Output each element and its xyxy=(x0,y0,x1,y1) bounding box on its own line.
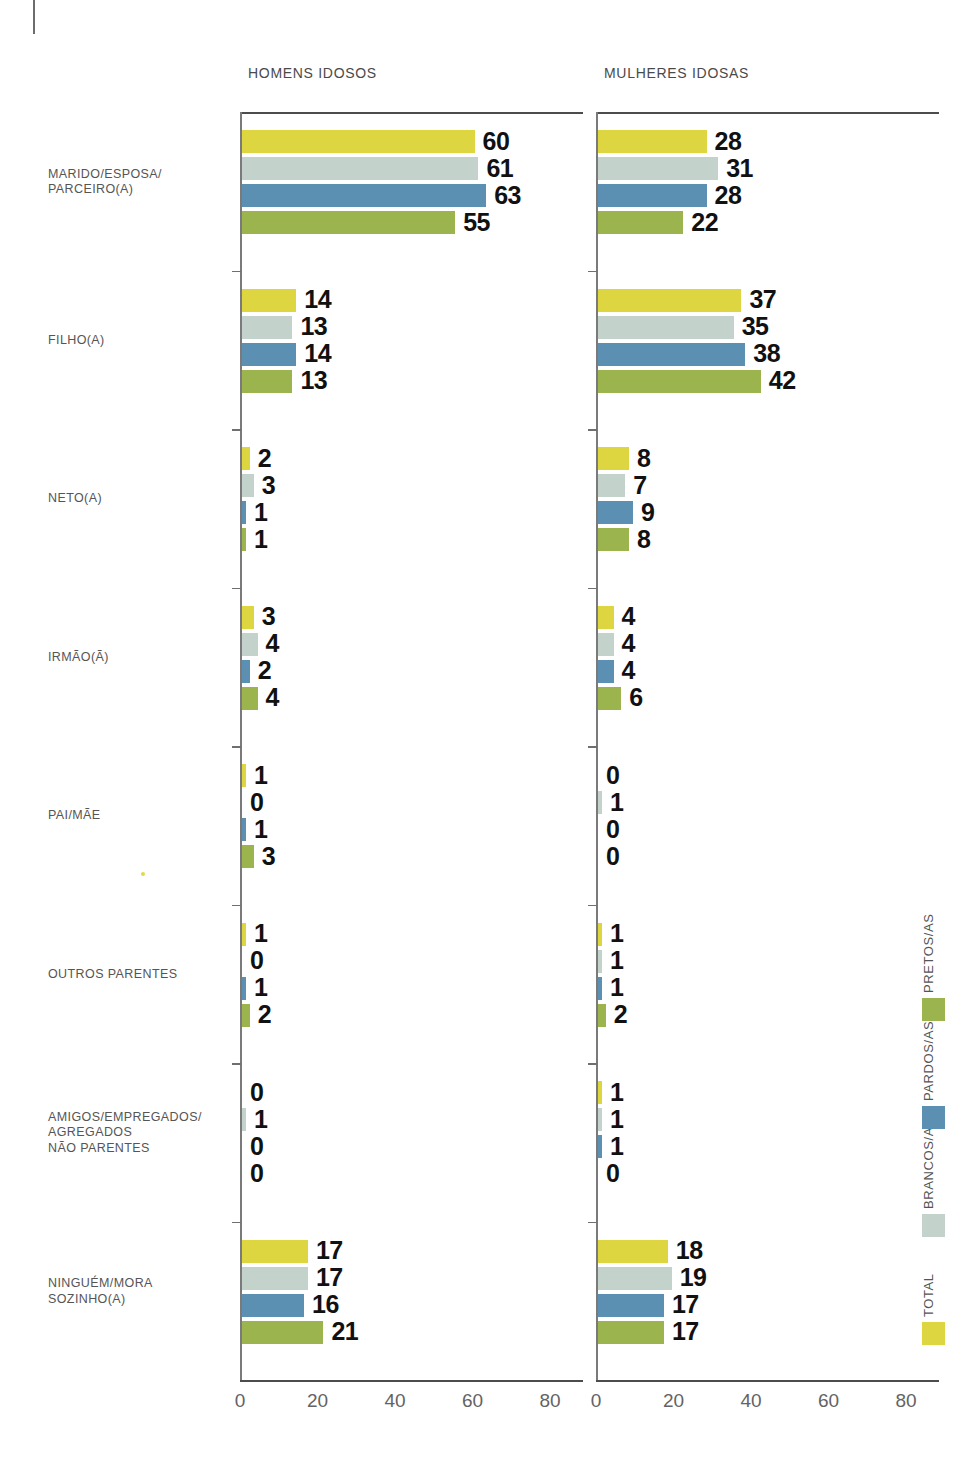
bar-row: 1 xyxy=(242,818,583,841)
bar-value-label: 4 xyxy=(622,656,635,685)
axis-top xyxy=(596,112,939,114)
bar-value-label: 8 xyxy=(637,443,650,472)
category-label: PAI/MÃE xyxy=(48,808,243,824)
bar-value-label: 21 xyxy=(331,1317,358,1346)
bar-value-label: 16 xyxy=(312,1290,339,1319)
bar-row: 3 xyxy=(242,474,583,497)
axis-bottom xyxy=(596,1380,939,1382)
bar-value-label: 17 xyxy=(316,1236,343,1265)
bar-value-label: 31 xyxy=(726,153,753,182)
panel-title-women: MULHERES IDOSAS xyxy=(604,65,749,81)
bar-value-label: 63 xyxy=(494,180,521,209)
x-axis-ticks-men: 020406080 xyxy=(240,1390,583,1424)
legend-item-pretos-as[interactable]: PRETOS/AS xyxy=(906,913,966,1021)
bar-pardos-as xyxy=(242,1294,304,1317)
axis-tick xyxy=(232,588,241,590)
bar-pardos-as xyxy=(598,343,745,366)
bar-row: 4 xyxy=(242,633,583,656)
bar-pardos-as xyxy=(242,184,486,207)
bar-row: 8 xyxy=(598,528,939,551)
bar-row: 55 xyxy=(242,211,583,234)
category-label: MARIDO/ESPOSA/ PARCEIRO(A) xyxy=(48,167,243,198)
bar-value-label: 3 xyxy=(262,470,275,499)
x-tick-label: 60 xyxy=(818,1390,839,1412)
bar-value-label: 61 xyxy=(486,153,513,182)
bar-value-label: 1 xyxy=(610,973,623,1002)
bar-value-label: 18 xyxy=(676,1236,703,1265)
bar-value-label: 19 xyxy=(680,1263,707,1292)
bar-brancos-as xyxy=(598,633,614,656)
bar-value-label: 3 xyxy=(262,602,275,631)
panel-title-men: HOMENS IDOSOS xyxy=(248,65,377,81)
bar-row: 4 xyxy=(598,633,939,656)
bar-row: 1 xyxy=(598,791,939,814)
bar-value-label: 42 xyxy=(769,366,796,395)
bar-row: 16 xyxy=(242,1294,583,1317)
bar-pretos-as xyxy=(598,687,621,710)
bar-row: 28 xyxy=(598,130,939,153)
bar-pardos-as xyxy=(242,977,246,1000)
bar-value-label: 28 xyxy=(715,180,742,209)
bar-row: 7 xyxy=(598,474,939,497)
bar-pardos-as xyxy=(598,977,602,1000)
bar-value-label: 4 xyxy=(266,683,279,712)
bar-row: 0 xyxy=(598,845,939,868)
bar-row: 1 xyxy=(598,950,939,973)
crop-mark xyxy=(33,0,35,34)
bar-row: 21 xyxy=(242,1321,583,1344)
bar-row: 1 xyxy=(242,977,583,1000)
bar-value-label: 14 xyxy=(304,339,331,368)
bar-value-label: 1 xyxy=(254,1104,267,1133)
bar-value-label: 0 xyxy=(250,1077,263,1106)
bar-brancos-as xyxy=(242,1267,308,1290)
bar-row: 4 xyxy=(598,606,939,629)
bar-value-label: 1 xyxy=(254,497,267,526)
bar-total xyxy=(242,1240,308,1263)
category-label: NETO(A) xyxy=(48,491,243,507)
x-tick-label: 0 xyxy=(235,1390,246,1412)
bar-row: 17 xyxy=(598,1321,939,1344)
bar-value-label: 2 xyxy=(614,1000,627,1029)
bar-value-label: 0 xyxy=(606,1158,619,1187)
bar-pretos-as xyxy=(242,845,254,868)
bar-total xyxy=(598,1081,602,1104)
axis-tick xyxy=(232,1063,241,1065)
bar-value-label: 0 xyxy=(250,787,263,816)
bar-row: 31 xyxy=(598,157,939,180)
axis-tick xyxy=(588,1222,597,1224)
category-label: AMIGOS/EMPREGADOS/ AGREGADOS NÃO PARENTE… xyxy=(48,1110,243,1157)
bar-value-label: 0 xyxy=(250,1158,263,1187)
bar-total xyxy=(598,130,707,153)
bar-row: 1 xyxy=(598,1108,939,1131)
axis-tick xyxy=(232,429,241,431)
bar-pardos-as xyxy=(598,1135,602,1158)
bar-total xyxy=(242,289,296,312)
x-tick-label: 0 xyxy=(591,1390,602,1412)
bar-pretos-as xyxy=(242,211,455,234)
bar-row: 0 xyxy=(242,1162,583,1185)
bar-brancos-as xyxy=(598,791,602,814)
bar-pardos-as xyxy=(598,501,633,524)
bar-pretos-as xyxy=(242,528,246,551)
legend-label: PRETOS/AS xyxy=(921,913,936,993)
legend-swatch xyxy=(922,1214,945,1237)
bar-row: 0 xyxy=(598,764,939,787)
bar-pardos-as xyxy=(598,184,707,207)
bar-value-label: 9 xyxy=(641,497,654,526)
bar-pretos-as xyxy=(242,1321,323,1344)
bar-row: 19 xyxy=(598,1267,939,1290)
bar-row: 3 xyxy=(242,606,583,629)
bar-pardos-as xyxy=(242,660,250,683)
category-label: FILHO(A) xyxy=(48,333,243,349)
bar-value-label: 1 xyxy=(610,919,623,948)
bar-row: 2 xyxy=(242,660,583,683)
bar-row: 63 xyxy=(242,184,583,207)
bar-row: 1 xyxy=(598,977,939,1000)
bar-pardos-as xyxy=(242,501,246,524)
bar-row: 35 xyxy=(598,316,939,339)
legend-item-pardos-as[interactable]: PARDOS/AS xyxy=(906,1021,966,1129)
bar-pardos-as xyxy=(242,818,246,841)
legend-item-brancos-as[interactable]: BRANCOS/AS xyxy=(906,1129,966,1237)
bar-row: 17 xyxy=(242,1267,583,1290)
legend-item-total[interactable]: TOTAL xyxy=(906,1237,966,1345)
